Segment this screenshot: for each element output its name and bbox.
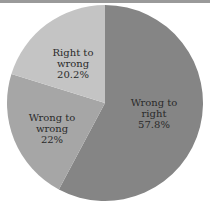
slice-label-right-to-wrong: Right to wrong 20.2% — [53, 47, 94, 80]
label-value: 57.8% — [138, 119, 170, 130]
label-line: right — [142, 108, 167, 119]
label-line: Wrong to — [29, 112, 76, 123]
label-line: wrong — [57, 58, 90, 69]
label-value: 20.2% — [57, 69, 89, 80]
label-value: 22% — [41, 134, 63, 145]
pie-chart: Wrong to right 57.8% Wrong to wrong 22% … — [0, 0, 210, 208]
label-line: wrong — [36, 123, 69, 134]
label-line: Wrong to — [131, 97, 178, 108]
label-line: Right to — [53, 47, 94, 58]
